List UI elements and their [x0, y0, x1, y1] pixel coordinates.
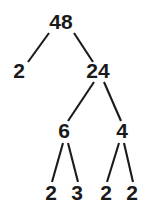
node-leaf-4: 2	[126, 181, 138, 204]
node-leaf-1: 2	[45, 181, 57, 204]
node-level1-right: 24	[86, 59, 110, 82]
node-level1-left: 2	[13, 59, 25, 82]
edge-48-to-2	[28, 33, 49, 62]
node-leaf-3: 2	[100, 181, 112, 204]
edge-4-to-2a	[107, 143, 119, 182]
factor-tree-canvas: 48 2 24 6 4 2 3 2 2	[0, 0, 149, 212]
factor-tree-diagram: 48 2 24 6 4 2 3 2 2	[0, 0, 149, 212]
node-level2-right: 4	[116, 119, 128, 142]
edge-24-to-6	[68, 82, 94, 121]
edge-group	[28, 33, 133, 182]
node-root-48: 48	[49, 10, 73, 33]
edge-24-to-4	[104, 82, 121, 121]
node-leaf-2: 3	[71, 181, 83, 204]
edge-6-to-3	[68, 143, 78, 182]
edge-6-to-2	[52, 143, 63, 182]
edge-48-to-24	[74, 33, 93, 62]
node-level2-left: 6	[58, 119, 70, 142]
edge-4-to-2b	[124, 143, 133, 182]
